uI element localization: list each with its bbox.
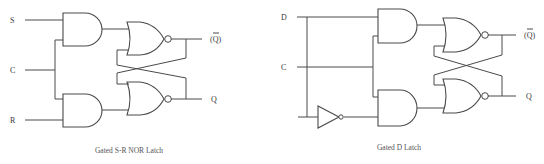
nor-gate-top (127, 22, 164, 55)
nor-bottom-inversion-bubble (482, 93, 489, 100)
output-label-q-bar: (Q) (524, 29, 535, 40)
nor-gate-bottom (443, 79, 481, 113)
svg-text:(Q): (Q) (524, 31, 535, 40)
d-latch-diagram: D C (281, 9, 535, 152)
input-label-c: C (281, 63, 286, 72)
output-label-q-bar: (Q) (210, 33, 221, 44)
input-label-s: S (10, 16, 14, 25)
sr-input-wires (25, 20, 63, 120)
nor-top-inversion-bubble (482, 32, 489, 39)
nor-top-inversion-bubble (165, 36, 172, 43)
caption-sr-latch: Gated S-R NOR Latch (95, 146, 163, 155)
output-label-q: Q (526, 92, 532, 101)
nor-gate-bottom (127, 82, 164, 115)
input-label-r: R (10, 116, 16, 125)
input-label-c: C (10, 66, 15, 75)
nor-bottom-inversion-bubble (165, 96, 172, 103)
input-label-d: D (281, 13, 287, 22)
nor-gate-top (443, 18, 481, 52)
output-label-q: Q (211, 95, 217, 104)
d-input-wires (297, 17, 378, 117)
not-gate (318, 106, 339, 128)
svg-text:(Q): (Q) (210, 35, 221, 44)
sr-latch-diagram: S C R (Q) (10, 13, 221, 155)
and-gate-bottom (378, 90, 417, 126)
latch-diagrams: S C R (Q) (0, 0, 544, 164)
and-gate-bottom (63, 94, 102, 127)
caption-d-latch: Gated D Latch (377, 143, 421, 152)
not-inversion-bubble (339, 115, 343, 119)
and-gate-top (63, 13, 102, 46)
and-gate-top (378, 9, 417, 43)
